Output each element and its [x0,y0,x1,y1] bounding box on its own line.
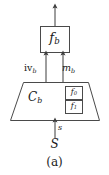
source-edge-label-s: s [58,124,62,132]
edge-label-ivb: ivb [24,63,36,74]
inner-box-label-f0: f0 [66,88,82,97]
source-node-label: S [0,138,109,150]
figure-caption: (a) [0,156,109,168]
inner-box-label-f1: f1 [66,102,82,111]
function-block-label: fb [0,31,109,46]
edge-label-mb: mb [62,63,75,74]
component-block-label: Cb [28,91,42,105]
figure-diagram: fb ivb mb Cb f0 f1 s S (a) [0,0,109,175]
component-trapezoid-cb [11,83,100,121]
